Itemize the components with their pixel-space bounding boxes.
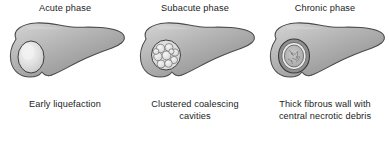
panel-heading-subacute: Subacute phase bbox=[161, 3, 229, 14]
panel-caption-acute: Early liquefaction bbox=[29, 99, 101, 111]
panel-caption-chronic: Thick fibrous wall with central necrotic… bbox=[279, 99, 371, 122]
panel-heading-acute: Acute phase bbox=[39, 3, 91, 14]
panel-subacute-phase: Subacute phase bbox=[130, 0, 260, 151]
liver-illustration-acute bbox=[0, 17, 130, 95]
liver-diagram-acute-svg bbox=[2, 17, 128, 93]
caption-line-1: Thick fibrous wall with bbox=[279, 99, 371, 111]
caption-line-1: Clustered coalescing bbox=[151, 99, 238, 111]
panel-row: Acute phase bbox=[0, 0, 389, 151]
panel-heading-chronic: Chronic phase bbox=[295, 3, 356, 14]
fibrous-wall-necrotic-lesion bbox=[279, 39, 310, 73]
panel-acute-phase: Acute phase bbox=[0, 0, 130, 151]
caption-line-2: central necrotic debris bbox=[279, 111, 371, 123]
caption-line-2: cavities bbox=[151, 111, 238, 123]
liver-abscess-phases-figure: Acute phase bbox=[0, 0, 389, 151]
caption-line-1: Early liquefaction bbox=[29, 99, 101, 111]
clustered-cavities-lesion bbox=[152, 40, 181, 70]
liver-diagram-chronic-svg bbox=[262, 17, 388, 93]
panel-caption-subacute: Clustered coalescing cavities bbox=[151, 99, 238, 122]
panel-chronic-phase: Chronic phase bbox=[260, 0, 389, 151]
liver-diagram-subacute-svg bbox=[132, 17, 258, 93]
liver-illustration-chronic bbox=[260, 17, 389, 95]
solitary-liquefaction-lesion bbox=[18, 41, 44, 73]
liver-illustration-subacute bbox=[130, 17, 260, 95]
